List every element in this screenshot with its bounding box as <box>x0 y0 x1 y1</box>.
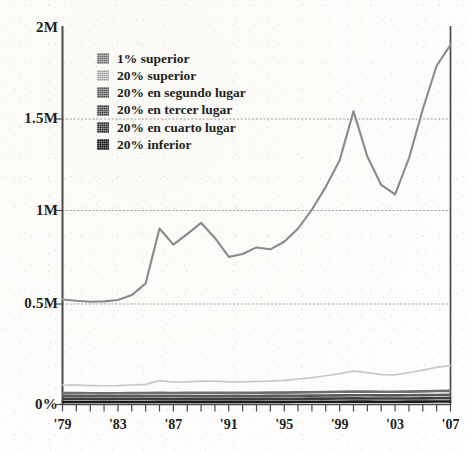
legend-item-label: 20% en segundo lugar <box>117 86 246 100</box>
legend-swatch-icon <box>97 87 109 98</box>
legend-swatch-icon <box>97 139 109 150</box>
x-axis-ticks <box>63 405 451 412</box>
series-line <box>63 366 451 386</box>
x-tick-label-87: '87 <box>164 417 182 433</box>
legend-item-20-inferior: 20% inferior <box>97 136 287 153</box>
legend-item-label: 20% inferior <box>117 138 192 152</box>
x-tick-label-99: '99 <box>331 417 349 433</box>
x-tick-label-07: '07 <box>442 417 460 433</box>
x-tick-label-95: '95 <box>275 417 293 433</box>
y-tick-label-0pct: 0% <box>4 396 58 413</box>
legend-item-20-cuarto-lugar: 20% en cuarto lugar <box>97 119 287 136</box>
legend-swatch-icon <box>97 122 109 133</box>
legend-swatch-icon <box>97 70 109 81</box>
legend-item-label: 20% en cuarto lugar <box>117 121 236 135</box>
legend-item-label: 20% superior <box>117 69 196 83</box>
legend-item-20-superior: 20% superior <box>97 67 287 84</box>
y-tick-label-2M: 2M <box>4 19 58 36</box>
legend-item-label: 1% superior <box>117 52 189 66</box>
y-tick-label-0_5M: 0.5M <box>4 295 58 312</box>
x-tick-label-91: '91 <box>220 417 238 433</box>
series-line <box>63 391 451 393</box>
y-tick-label-1M: 1M <box>4 202 58 219</box>
x-tick-label-03: '03 <box>386 417 404 433</box>
y-tick-label-1_5M: 1.5M <box>4 110 58 127</box>
x-tick-label-83: '83 <box>109 417 127 433</box>
legend-item-20-segundo-lugar: 20% en segundo lugar <box>97 84 287 101</box>
y-axis-ticks <box>56 119 62 405</box>
x-tick-label-79: '79 <box>54 417 72 433</box>
series-line <box>63 398 451 399</box>
legend-swatch-icon <box>97 53 109 64</box>
series-line <box>63 395 451 396</box>
legend-item-label: 20% en tercer lugar <box>117 103 232 117</box>
chart-figure: 2M 1.5M 1M 0.5M 0% '79'83'87'91'95'99'03… <box>0 0 468 451</box>
legend-item-20-tercer-lugar: 20% en tercer lugar <box>97 102 287 119</box>
chart-legend: 1% superior 20% superior 20% en segundo … <box>97 50 287 153</box>
legend-swatch-icon <box>97 105 109 116</box>
legend-item-1-superior: 1% superior <box>97 50 287 67</box>
